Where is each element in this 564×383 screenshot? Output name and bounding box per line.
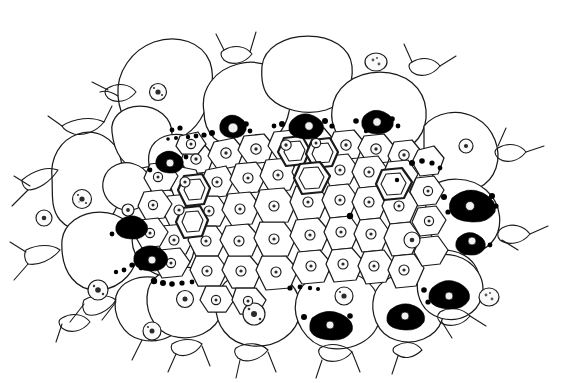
nucleus: [303, 197, 313, 207]
nucleus: [174, 205, 184, 215]
nucleus: [148, 200, 157, 209]
nucleus: [269, 201, 279, 211]
nucleus: [369, 261, 379, 271]
figure-root: Black-and-white stippled line drawing of…: [0, 0, 564, 383]
nucleus: [243, 173, 253, 183]
nucleus: [36, 210, 52, 226]
nucleus: [243, 296, 252, 305]
nucleus: [394, 201, 404, 211]
nucleus: [243, 303, 265, 325]
nucleus: [251, 144, 261, 154]
tissue-cross-section-drawing: Black-and-white stippled line drawing of…: [0, 0, 564, 383]
nucleus: [235, 204, 245, 214]
nucleus: [423, 186, 432, 195]
nucleus: [338, 259, 348, 269]
nucleus: [73, 190, 92, 209]
nucleus: [335, 287, 353, 305]
nucleus: [180, 177, 190, 187]
nucleus: [273, 170, 283, 180]
nucleus: [335, 195, 345, 205]
nucleus: [150, 84, 167, 101]
nucleus: [211, 295, 220, 304]
nucleus: [364, 167, 374, 177]
nucleus: [177, 291, 194, 308]
nucleus: [269, 234, 279, 244]
nucleus: [221, 148, 231, 158]
nucleus: [306, 261, 316, 271]
nucleus: [281, 140, 291, 150]
nucleus: [336, 227, 346, 237]
nucleus: [305, 230, 315, 240]
nucleus: [366, 229, 376, 239]
nucleus: [88, 280, 108, 300]
nucleus: [341, 140, 351, 150]
nucleus: [202, 266, 212, 276]
nucleus: [399, 150, 409, 160]
nucleus: [271, 267, 281, 277]
nucleus: [399, 265, 409, 275]
nucleus: [201, 236, 211, 246]
nucleus: [424, 216, 433, 225]
nucleus: [143, 322, 161, 340]
nucleus: [153, 172, 162, 181]
nucleus: [204, 206, 214, 216]
free-body: [479, 288, 499, 306]
nucleus: [311, 138, 320, 147]
nucleus: [459, 139, 473, 153]
nucleus: [371, 144, 381, 154]
nucleus: [186, 139, 195, 148]
nucleus: [212, 177, 222, 187]
nucleus: [335, 165, 345, 175]
nucleus: [236, 266, 246, 276]
free-body: [365, 53, 387, 71]
nucleus: [364, 197, 374, 207]
nucleus: [191, 154, 201, 164]
nucleus: [169, 235, 179, 245]
nucleus: [122, 204, 134, 216]
nucleus: [404, 232, 420, 248]
nucleus: [234, 236, 244, 246]
